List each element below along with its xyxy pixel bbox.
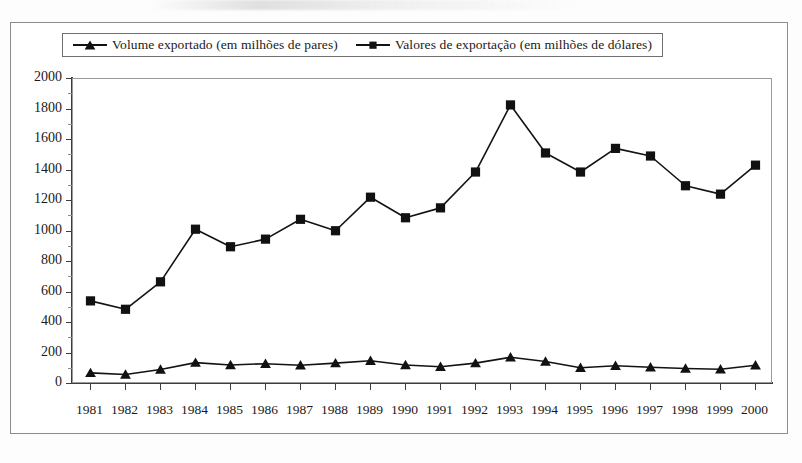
data-point-square bbox=[541, 148, 550, 157]
data-point-square bbox=[681, 181, 690, 190]
y-tick-label: 600 bbox=[16, 284, 62, 298]
x-tick bbox=[195, 383, 196, 390]
data-point-square bbox=[716, 190, 725, 199]
data-point-square bbox=[261, 235, 270, 244]
x-tick bbox=[545, 383, 546, 390]
x-tick bbox=[685, 383, 686, 390]
chart-legend: Volume exportado (em milhões de pares) V… bbox=[62, 33, 663, 57]
chart-figure: Volume exportado (em milhões de pares) V… bbox=[0, 0, 802, 463]
data-point-square bbox=[576, 167, 585, 176]
scan-artifact bbox=[150, 0, 580, 10]
x-tick bbox=[510, 383, 511, 390]
y-tick-label: 1000 bbox=[16, 223, 62, 237]
data-point-triangle bbox=[505, 352, 516, 361]
x-tick bbox=[370, 383, 371, 390]
series-line bbox=[91, 105, 756, 309]
series-valores bbox=[86, 100, 760, 314]
data-point-square bbox=[331, 226, 340, 235]
data-point-square bbox=[121, 305, 130, 314]
x-tick bbox=[265, 383, 266, 390]
data-point-square bbox=[86, 296, 95, 305]
x-tick bbox=[475, 383, 476, 390]
x-tick bbox=[335, 383, 336, 390]
x-tick bbox=[300, 383, 301, 390]
x-tick bbox=[125, 383, 126, 390]
data-point-square bbox=[646, 151, 655, 160]
data-point-square bbox=[226, 242, 235, 251]
data-point-square bbox=[401, 213, 410, 222]
x-tick bbox=[720, 383, 721, 390]
series-line bbox=[91, 357, 756, 374]
y-tick-label: 2000 bbox=[16, 70, 62, 84]
legend-entry-volume[interactable]: Volume exportado (em milhões de pares) bbox=[73, 38, 338, 52]
series-volume bbox=[85, 352, 761, 379]
data-point-square bbox=[366, 193, 375, 202]
legend-label-valores: Valores de exportação (em milhões de dól… bbox=[395, 38, 652, 52]
data-point-square bbox=[436, 203, 445, 212]
data-point-square bbox=[191, 225, 200, 234]
data-point-square bbox=[471, 167, 480, 176]
data-point-square bbox=[751, 161, 760, 170]
y-tick-label: 1600 bbox=[16, 131, 62, 145]
x-tick bbox=[755, 383, 756, 390]
data-point-square bbox=[156, 277, 165, 286]
series-canvas bbox=[73, 79, 773, 384]
data-point-triangle bbox=[750, 360, 761, 369]
x-tick bbox=[230, 383, 231, 390]
y-tick-label: 200 bbox=[16, 345, 62, 359]
x-tick bbox=[615, 383, 616, 390]
legend-label-volume: Volume exportado (em milhões de pares) bbox=[112, 38, 338, 52]
y-tick bbox=[66, 383, 72, 384]
x-tick bbox=[440, 383, 441, 390]
data-point-square bbox=[506, 100, 515, 109]
y-tick-label: 400 bbox=[16, 314, 62, 328]
x-tick bbox=[650, 383, 651, 390]
plot-area bbox=[72, 78, 772, 383]
y-tick-label: 800 bbox=[16, 253, 62, 267]
y-tick-label: 1200 bbox=[16, 192, 62, 206]
y-tick-label: 0 bbox=[16, 375, 62, 389]
triangle-marker-icon bbox=[73, 40, 107, 50]
x-tick bbox=[580, 383, 581, 390]
y-tick-label: 1800 bbox=[16, 101, 62, 115]
legend-entry-valores[interactable]: Valores de exportação (em milhões de dól… bbox=[356, 38, 652, 52]
data-point-square bbox=[296, 215, 305, 224]
x-tick bbox=[405, 383, 406, 390]
data-point-square bbox=[611, 144, 620, 153]
x-tick-label: 2000 bbox=[732, 403, 778, 417]
x-tick bbox=[160, 383, 161, 390]
x-tick bbox=[90, 383, 91, 390]
square-marker-icon bbox=[356, 40, 390, 50]
y-tick-label: 1400 bbox=[16, 162, 62, 176]
